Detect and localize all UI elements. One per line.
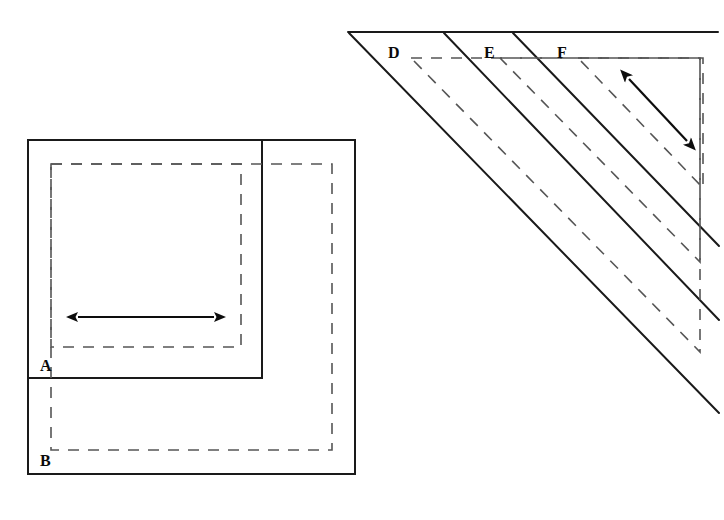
label-d: D [388,44,400,61]
figure-canvas: A B D E F [0,0,724,520]
triangle-d-inner-dashed [411,58,700,352]
square-b-inner-dashed [51,164,332,450]
square-a-outline [28,140,262,378]
nested-triangles-panel: D E F [348,32,719,413]
triangle-e-inner-dashed [500,58,700,262]
label-a: A [40,357,52,374]
triangle-f-hypotenuse [513,33,719,246]
nested-squares-panel: A B [28,140,355,474]
square-a-inner-dashed [51,164,241,347]
figure-root: A B D E F [0,0,724,520]
label-e: E [484,44,495,61]
triangle-f-inner-dashed [578,58,703,188]
square-b-outline [28,140,355,474]
diagonal-double-arrow [629,79,687,141]
triangle-d-hypotenuse [349,33,719,413]
triangle-e-hypotenuse [444,33,719,320]
label-f: F [557,44,567,61]
label-b: B [40,452,51,469]
